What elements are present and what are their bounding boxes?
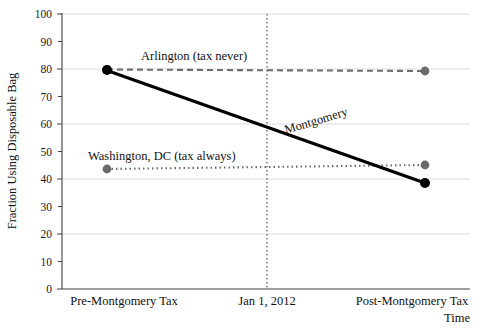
x-tick-label-jan-1-2012: Jan 1, 2012 — [238, 294, 295, 308]
series-arlington-line — [107, 70, 425, 72]
y-tick-label-40: 40 — [41, 173, 53, 185]
series-washington-dc-point-pre — [103, 165, 112, 174]
series-arlington — [103, 65, 430, 75]
line-chart-svg: 100 90 80 70 60 50 40 30 20 10 0 — [0, 0, 490, 334]
series-montgomery-point-post — [420, 178, 430, 188]
y-axis — [57, 13, 62, 289]
series-label-montgomery: Montgomery — [283, 104, 350, 137]
series-washington-dc-point-post — [421, 161, 430, 170]
y-tick-label-60: 60 — [41, 118, 53, 130]
y-tick-label-80: 80 — [41, 63, 53, 75]
gridlines — [62, 14, 470, 234]
y-tick-label-90: 90 — [41, 36, 53, 48]
y-tick-label-30: 30 — [41, 201, 53, 213]
y-tick-label-0: 0 — [46, 283, 52, 295]
y-tick-labels: 100 90 80 70 60 50 40 30 20 10 0 — [35, 8, 53, 295]
y-tick-label-20: 20 — [41, 228, 53, 240]
y-axis-title: Fraction Using Disposable Bag — [5, 72, 19, 229]
x-tick-label-post-montgomery-tax: Post-Montgomery Tax — [356, 294, 469, 308]
x-tick-label-pre-montgomery-tax: Pre-Montgomery Tax — [70, 294, 178, 308]
y-tick-label-70: 70 — [41, 91, 53, 103]
series-arlington-point-post — [421, 67, 430, 76]
series-montgomery — [102, 65, 430, 188]
chart-figure: 100 90 80 70 60 50 40 30 20 10 0 — [0, 0, 490, 334]
series-montgomery-line — [107, 71, 425, 184]
y-tick-label-100: 100 — [35, 8, 53, 20]
series-label-washington-dc: Washington, DC (tax always) — [88, 149, 236, 163]
series-label-arlington: Arlington (tax never) — [141, 49, 247, 63]
y-tick-label-10: 10 — [41, 256, 53, 268]
x-axis-title: Time — [444, 311, 470, 325]
series-montgomery-point-pre — [102, 65, 112, 75]
y-tick-label-50: 50 — [41, 146, 53, 158]
